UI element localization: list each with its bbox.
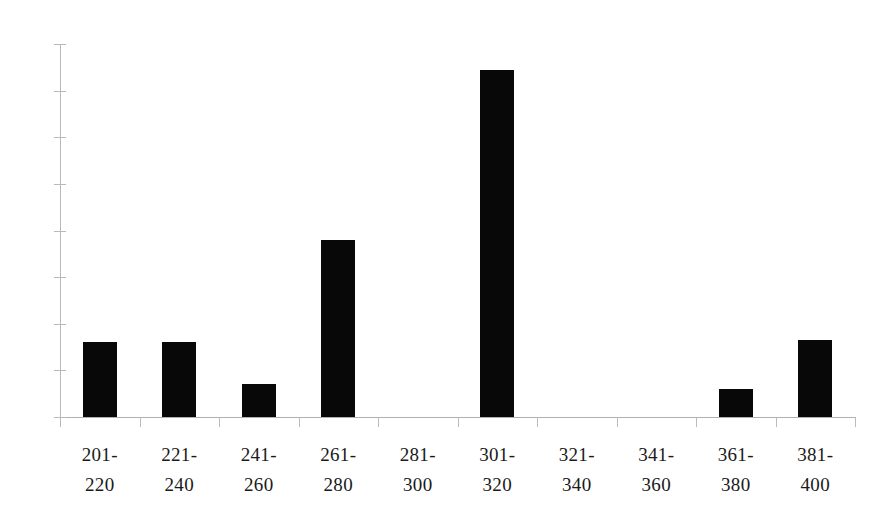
y-axis-tick-mark [54,277,66,278]
bar-chart: 0.80.70.60.50.40.30.20.10 201-220221-240… [0,0,881,521]
x-axis-tick-label: 361-380 [696,440,776,500]
x-axis-tick-label: 201-220 [60,440,140,500]
x-axis-tick-label: 241-260 [219,440,299,500]
x-axis-tick-label: 381-400 [776,440,856,500]
x-axis-tick-label-line: 341- [617,440,697,470]
x-axis-tick-mark [776,417,777,427]
x-axis-tick-label-line: 280 [299,470,379,500]
y-axis-tick-mark [54,370,66,371]
x-axis-tick-label-line: 301- [458,440,538,470]
x-axis-tick-label-line: 361- [696,440,776,470]
x-axis-tick-label: 281-300 [378,440,458,500]
bar [321,240,355,417]
x-axis-tick-mark [378,417,379,427]
x-axis-tick-mark [60,417,61,427]
x-axis-tick-mark [219,417,220,427]
x-axis-tick-label: 301-320 [458,440,538,500]
x-axis-tick-label-line: 381- [776,440,856,470]
x-axis-tick-mark [458,417,459,427]
x-axis-tick-label: 261-280 [299,440,379,500]
y-axis-tick-mark [54,137,66,138]
y-axis-tick-mark [54,324,66,325]
x-axis-tick-mark [537,417,538,427]
x-axis-tick-label-line: 240 [140,470,220,500]
x-axis-tick-label-line: 261- [299,440,379,470]
x-axis-tick-label-line: 221- [140,440,220,470]
x-axis-tick-label-line: 360 [617,470,697,500]
x-axis-tick-label-line: 281- [378,440,458,470]
x-axis-tick-mark [140,417,141,427]
x-axis-tick-label: 321-340 [537,440,617,500]
bar [162,342,196,417]
x-axis-tick-mark [696,417,697,427]
bar [83,342,117,417]
x-axis-tick-label-line: 300 [378,470,458,500]
x-axis-tick-label-line: 241- [219,440,299,470]
x-axis-tick-label-line: 320 [458,470,538,500]
x-axis-tick-label-line: 201- [60,440,140,470]
bar [719,389,753,417]
bar [242,384,276,417]
x-axis-tick-label-line: 380 [696,470,776,500]
x-axis-tick-label-line: 220 [60,470,140,500]
x-axis-tick-label-line: 400 [776,470,856,500]
bar [480,70,514,417]
x-axis-tick-label: 221-240 [140,440,220,500]
x-axis-tick-mark [617,417,618,427]
y-axis-tick-mark [54,91,66,92]
x-axis-tick-label-line: 260 [219,470,299,500]
bar [798,340,832,417]
y-axis-tick-mark [54,231,66,232]
x-axis-tick-label: 341-360 [617,440,697,500]
y-axis-tick-mark [54,184,66,185]
x-axis-tick-label-line: 340 [537,470,617,500]
x-axis-tick-label-line: 321- [537,440,617,470]
x-axis-tick-mark [855,417,856,427]
y-axis-tick-mark [54,44,66,45]
x-axis-tick-mark [299,417,300,427]
